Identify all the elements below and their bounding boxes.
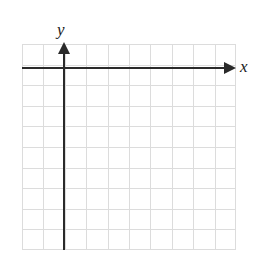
gridline-horizontal xyxy=(22,229,236,230)
gridline-horizontal xyxy=(22,209,236,210)
gridline-horizontal xyxy=(22,65,236,66)
x-axis-line xyxy=(22,67,228,69)
grid-area xyxy=(22,44,236,250)
x-axis-label: x xyxy=(240,58,248,75)
gridline-horizontal xyxy=(22,106,236,107)
gridline-horizontal xyxy=(22,126,236,127)
gridline-horizontal xyxy=(22,44,236,45)
coordinate-grid-figure: x y xyxy=(0,0,264,262)
gridline-horizontal xyxy=(22,147,236,148)
gridline-horizontal xyxy=(22,85,236,86)
gridline-horizontal xyxy=(22,249,236,250)
y-axis-line xyxy=(63,52,65,250)
x-axis-arrowhead-icon xyxy=(224,62,236,74)
gridline-horizontal xyxy=(22,168,236,169)
y-axis-label: y xyxy=(57,21,65,38)
y-axis-arrowhead-icon xyxy=(58,42,70,54)
gridline-horizontal xyxy=(22,188,236,189)
